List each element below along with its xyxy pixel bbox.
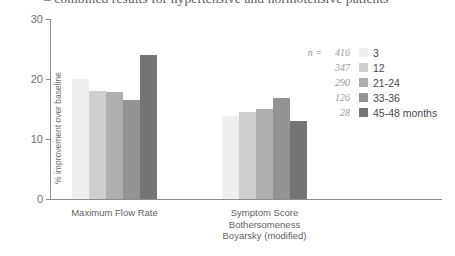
legend-label: 12 [373,62,385,74]
bar [72,79,89,199]
legend-item[interactable]: 2845-48 months [300,106,437,120]
bar [273,98,290,199]
y-tick-label: 30 [31,13,43,25]
x-category-label-line: Bothersomeness [205,219,325,231]
y-tick-mark [46,199,50,200]
bar [123,100,140,199]
y-tick-label: 20 [31,73,43,85]
x-category-label: Maximum Flow Rate [55,207,175,219]
legend-sample-size: 290 [324,77,350,88]
legend-label: 3 [373,47,379,59]
legend-sample-size: 126 [324,92,350,103]
bar [140,55,157,199]
x-category-label-line: Boyarsky (modified) [205,230,325,242]
bar [222,116,239,199]
bar-group-0 [72,19,157,199]
y-tick-mark [46,139,50,140]
legend: n =41633471229021-2412633-362845-48 mont… [300,46,437,121]
legend-item[interactable]: n =4163 [300,46,437,60]
legend-item[interactable]: 34712 [300,61,437,75]
legend-swatch-icon [359,108,368,117]
bar [290,121,307,199]
legend-swatch-icon [359,63,368,72]
bar [239,112,256,199]
legend-n-prefix: n = [300,47,324,58]
y-axis-line [50,19,51,200]
x-category-label-line: Maximum Flow Rate [55,207,175,219]
bar [256,109,273,199]
y-tick-mark [46,79,50,80]
chart-title: – combined results for hypertensive and … [44,0,389,7]
x-axis-line [50,199,442,200]
legend-item[interactable]: 12633-36 [300,91,437,105]
x-category-label-line: Symptom Score [205,207,325,219]
legend-label: 45-48 months [373,107,437,119]
legend-item[interactable]: 29021-24 [300,76,437,90]
legend-label: 33-36 [373,92,400,104]
bar [106,92,123,199]
legend-sample-size: 28 [324,107,350,118]
legend-swatch-icon [359,48,368,57]
legend-sample-size: 347 [324,62,350,73]
y-tick-mark [46,19,50,20]
legend-sample-size: 416 [324,47,350,58]
bar-group-1 [222,19,307,199]
y-tick-label: 0 [37,193,43,205]
legend-label: 21-24 [373,77,400,89]
x-category-label: Symptom ScoreBothersomenessBoyarsky (mod… [205,207,325,242]
legend-swatch-icon [359,93,368,102]
bar [89,91,106,199]
legend-swatch-icon [359,78,368,87]
y-tick-label: 10 [31,133,43,145]
